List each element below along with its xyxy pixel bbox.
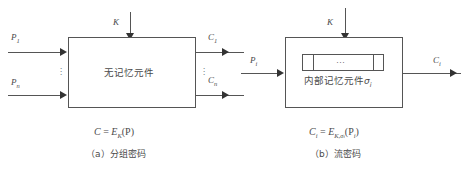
output-arrowhead-c1 (222, 48, 229, 56)
input-line-pi (241, 73, 278, 74)
caption-b: （b）流密码 (310, 150, 361, 159)
memoryless-component-label: 无记忆元件 (104, 68, 154, 78)
output-label-cn: Cn (208, 76, 217, 87)
formula-block-cipher: C = EK(P) (94, 127, 134, 140)
output-label-c1: C1 (208, 33, 217, 44)
input-arrowhead-p1 (60, 48, 67, 56)
input-label-pi: Pi (250, 56, 257, 67)
output-arrowhead-cn (222, 91, 229, 99)
register-divider-left (313, 54, 314, 71)
internal-memory-label: 内部记忆元件σi (304, 76, 372, 88)
input-arrowhead-pn (60, 91, 67, 99)
input-label-p1: P1 (11, 33, 20, 44)
caption-a: （a）分组密码 (86, 150, 146, 159)
key-label-a: K (113, 18, 119, 27)
output-ellipsis-vertical: ... (201, 65, 207, 74)
input-arrowhead-pi (277, 69, 284, 77)
key-label-b: K (327, 18, 333, 27)
panel-stream-cipher: K ··· 内部记忆元件σi Pi Ci Ci = EK,σi(Pi) （b）流… (237, 0, 475, 174)
input-label-pn: Pn (11, 78, 20, 89)
output-label-ci: Ci (433, 56, 441, 67)
input-ellipsis-vertical: ... (58, 65, 64, 74)
output-arrowhead-ci (450, 69, 457, 77)
register-divider-right (373, 54, 374, 71)
stream-component-box (285, 37, 403, 108)
input-line-p1 (8, 52, 61, 53)
register-ellipsis: ··· (336, 58, 345, 67)
input-line-pn (8, 95, 61, 96)
panel-block-cipher: K 无记忆元件 P1 Pn ... C1 Cn ... C = EK(P) （a… (0, 0, 237, 174)
formula-stream-cipher: Ci = EK,σi(Pi) (309, 127, 359, 140)
figure-root: K 无记忆元件 P1 Pn ... C1 Cn ... C = EK(P) （a… (0, 0, 475, 174)
